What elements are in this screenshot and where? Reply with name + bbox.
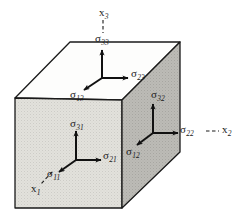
- stress-label-sigma21: σ21: [103, 150, 116, 161]
- stress-label-sigma13: σ13: [70, 89, 83, 100]
- stress-label-sigma22: σ22: [180, 124, 193, 135]
- stress-label-sigma21-subscript: 21: [109, 155, 117, 164]
- stress-label-sigma11-subscript: 11: [53, 173, 60, 182]
- stress-label-sigma12-subscript: 12: [132, 151, 140, 160]
- stress-label-sigma31: σ31: [70, 118, 83, 129]
- stress-label-sigma23-subscript: 23: [137, 73, 145, 82]
- axis-label-x2: x2: [222, 124, 231, 135]
- stress-label-sigma31-subscript: 31: [76, 123, 84, 132]
- stress-label-sigma22-subscript: 22: [186, 129, 194, 138]
- stress-label-sigma33-subscript: 33: [101, 38, 109, 47]
- axis-label-x1: x1: [31, 183, 40, 194]
- axis-label-x2-subscript: 2: [228, 129, 232, 138]
- stress-label-sigma33: σ33: [95, 33, 108, 44]
- stress-label-sigma11: σ11: [47, 168, 60, 179]
- axis-label-x3-subscript: 3: [105, 12, 109, 21]
- stress-label-sigma32-subscript: 32: [157, 94, 165, 103]
- stress-label-sigma12: σ12: [126, 146, 139, 157]
- stress-label-sigma13-subscript: 13: [76, 94, 84, 103]
- axis-label-x3: x3: [99, 7, 108, 18]
- stress-element-figure: x3 x2 x1 σ33 σ23 σ13 σ31 σ21 σ11 σ32 σ22…: [0, 0, 245, 223]
- axis-label-x1-subscript: 1: [37, 188, 41, 197]
- stress-label-sigma32: σ32: [151, 89, 164, 100]
- stress-label-sigma23: σ23: [131, 68, 144, 79]
